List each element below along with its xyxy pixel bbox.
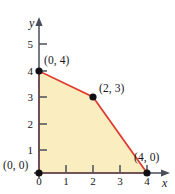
shaded-region — [39, 71, 147, 173]
graph-figure: 5 4 3 2 1 0 1 2 3 4 y x (0, 4) (2, 3) (4… — [0, 0, 175, 194]
y-axis-arrowhead — [35, 17, 42, 26]
point-marker-0-0 — [35, 169, 42, 176]
coordinate-plane — [0, 0, 175, 194]
point-marker-2-3 — [89, 93, 96, 100]
point-marker-4-0 — [143, 169, 150, 176]
x-axis-arrowhead — [161, 169, 170, 176]
point-marker-0-4 — [35, 67, 42, 74]
